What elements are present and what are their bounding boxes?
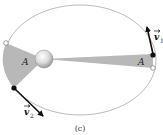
swept-area-right [44, 54, 153, 68]
sun-sphere [35, 50, 53, 68]
velocity-v1-arrow [147, 27, 153, 54]
position-marker-open-left [4, 41, 9, 46]
planet-position-right [150, 52, 155, 57]
area-label-right: A [137, 57, 145, 67]
figure-caption: (c) [75, 124, 86, 133]
area-label-left: A [21, 57, 29, 67]
kepler-diagram: A A v 1 v 2 (c) [0, 0, 163, 135]
position-marker-open-right [151, 66, 156, 71]
svg-text:1: 1 [160, 37, 163, 44]
v1-label: v 1 [154, 30, 163, 45]
planet-position-left [11, 85, 16, 90]
svg-text:2: 2 [30, 112, 34, 119]
